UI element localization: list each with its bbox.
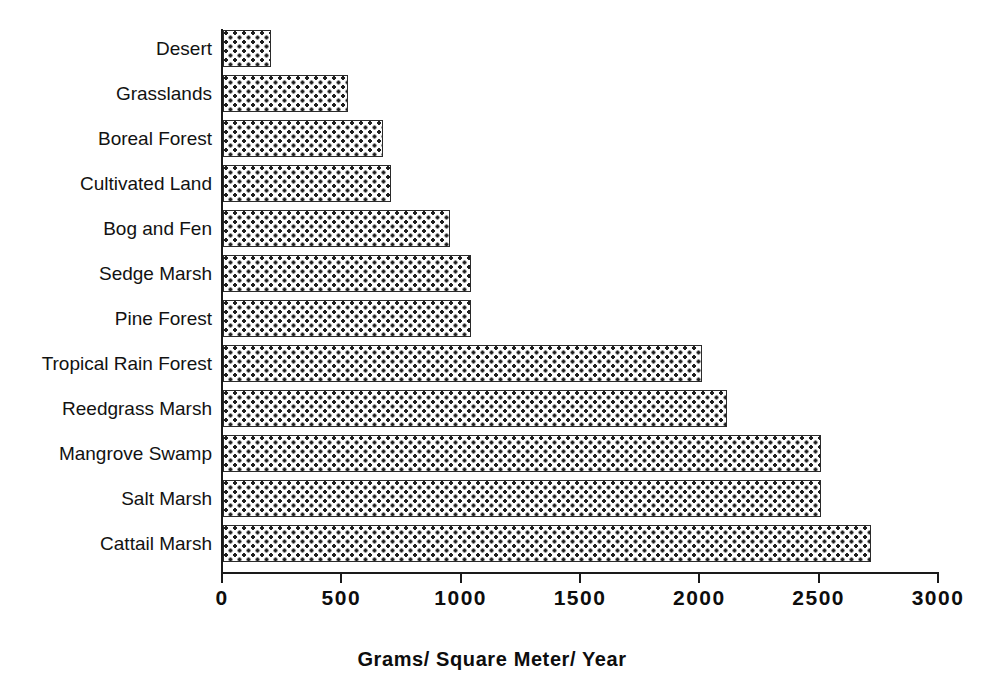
category-label: Cultivated Land [80,174,212,193]
bar [223,435,821,472]
bar [223,300,471,337]
category-label: Salt Marsh [121,489,212,508]
x-tick [818,574,820,583]
category-label: Tropical Rain Forest [42,354,212,373]
x-tick [460,574,462,583]
bar [223,345,702,382]
x-tick-label: 1500 [554,586,607,610]
bar [223,255,471,292]
x-tick [221,574,223,583]
x-tick-label: 3000 [912,586,965,610]
category-label: Boreal Forest [98,129,212,148]
x-tick [698,574,700,583]
bar [223,210,450,247]
x-tick-label: 2500 [792,586,845,610]
bar [223,390,727,427]
x-tick-label: 500 [322,586,362,610]
x-axis-title: Grams/ Square Meter/ Year [0,648,984,671]
x-tick-label: 2000 [673,586,726,610]
category-label: Bog and Fen [103,219,212,238]
category-label: Desert [156,39,212,58]
category-label: Cattail Marsh [100,534,212,553]
plot-area: DesertGrasslandsBoreal ForestCultivated … [0,0,984,690]
category-label: Pine Forest [115,309,212,328]
x-tick [340,574,342,583]
category-label: Reedgrass Marsh [62,399,212,418]
category-label: Sedge Marsh [99,264,212,283]
category-label: Grasslands [116,84,212,103]
bar [223,30,271,67]
bar [223,165,391,202]
x-tick-label: 1000 [434,586,487,610]
category-label: Mangrove Swamp [59,444,212,463]
x-tick [937,574,939,583]
bar [223,525,871,562]
x-tick-label: 0 [215,586,228,610]
x-tick [579,574,581,583]
bar-chart: DesertGrasslandsBoreal ForestCultivated … [0,0,984,690]
bar [223,75,348,112]
bar [223,480,821,517]
bar [223,120,383,157]
